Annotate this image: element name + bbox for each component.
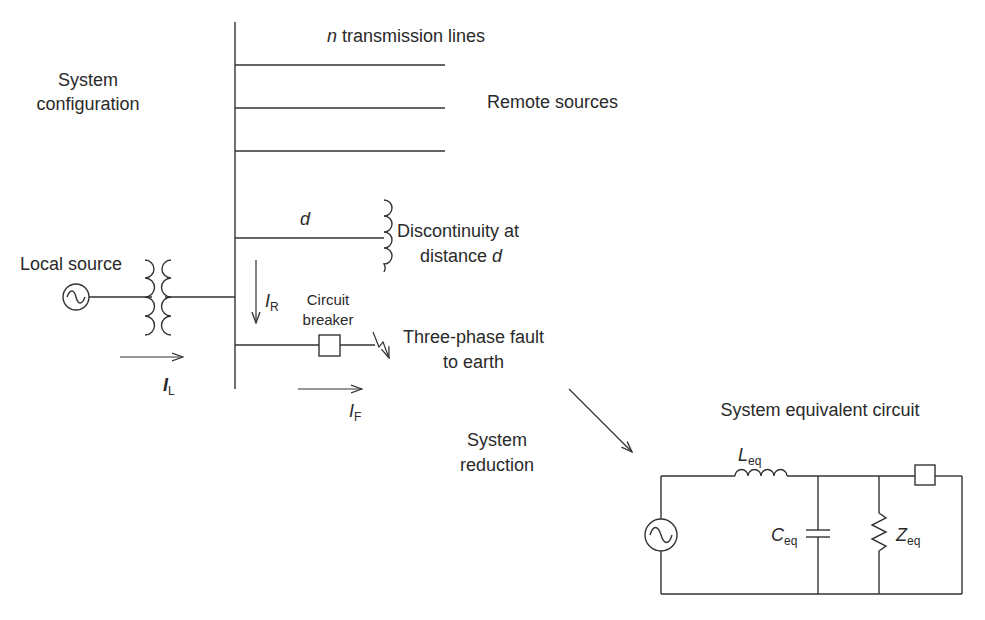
fault-label-line2: to earth <box>443 352 504 372</box>
current-IL-label: IL <box>163 375 175 398</box>
power-system-diagram: System configuration n transmission line… <box>0 0 985 620</box>
reduction-arrow-icon <box>569 389 632 452</box>
current-IR-label: IR <box>265 291 279 314</box>
impedance-label: Zeq <box>895 525 920 548</box>
local-source-label: Local source <box>20 254 122 274</box>
equivalent-circuit: System equivalent circuit Leq Ceq Zeq <box>645 400 962 594</box>
capacitor-icon <box>806 530 830 537</box>
inductor-icon <box>735 470 787 476</box>
circuit-breaker-icon <box>319 335 340 356</box>
system-configuration-title-line2: configuration <box>36 94 139 114</box>
remote-sources-label: Remote sources <box>487 92 618 112</box>
circuit-breaker-label-line2: breaker <box>303 311 354 328</box>
capacitor-label: Ceq <box>771 525 797 548</box>
ac-source-icon <box>63 284 89 310</box>
discontinuity-coil-icon <box>384 200 392 272</box>
eq-circuit-breaker-icon <box>915 465 935 485</box>
fault-label-line1: Three-phase fault <box>403 327 544 347</box>
current-IF-label: IF <box>349 401 361 424</box>
system-reduction-label-line1: System <box>467 430 527 450</box>
discontinuity-label-line2: distance d <box>420 246 503 266</box>
circuit-breaker-label-line1: Circuit <box>307 291 350 308</box>
fault-lightning-icon <box>373 332 389 358</box>
equivalent-circuit-title: System equivalent circuit <box>720 400 919 420</box>
resistor-icon <box>872 513 886 551</box>
distance-d-label: d <box>300 209 311 229</box>
system-reduction-label-line2: reduction <box>460 455 534 475</box>
system-reduction: System reduction <box>460 389 632 475</box>
eq-ac-source-icon <box>645 519 677 551</box>
system-configuration: System configuration n transmission line… <box>20 22 618 424</box>
transmission-lines-label: n transmission lines <box>327 26 485 46</box>
system-configuration-title-line1: System <box>58 70 118 90</box>
discontinuity-label-line1: Discontinuity at <box>397 221 519 241</box>
inductor-label: Leq <box>738 445 761 468</box>
